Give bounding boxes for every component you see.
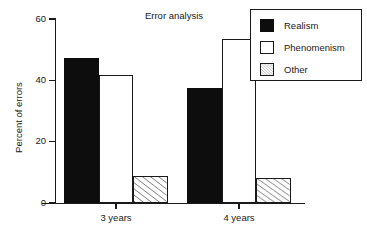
legend-label: Phenomenism [284, 42, 345, 53]
y-axis-tick-label: 0 [20, 197, 46, 208]
chart-legend: RealismPhenomenismOther [250, 9, 362, 81]
bar-other-4-years [256, 178, 291, 203]
hatch-pattern-icon [257, 179, 290, 202]
bar-realism-3-years [64, 58, 99, 203]
x-axis-tick-label: 3 years [76, 212, 156, 223]
y-axis-tick [49, 141, 56, 142]
legend-label: Other [284, 64, 308, 75]
legend-item-other: Other [260, 62, 308, 77]
hatch-pattern-icon [261, 64, 273, 75]
y-axis-tick [49, 202, 56, 203]
bar-phenomenism-3-years [99, 75, 134, 203]
legend-item-realism: Realism [260, 18, 318, 33]
y-axis-tick [49, 18, 56, 19]
bar-other-3-years [133, 176, 168, 203]
legend-item-phenomenism: Phenomenism [260, 40, 345, 55]
legend-swatch-hatch-icon [260, 63, 274, 76]
x-axis-tick-label: 4 years [199, 212, 279, 223]
legend-label: Realism [284, 20, 318, 31]
y-axis-tick-label: 40 [20, 74, 46, 85]
y-axis-tick-label: 60 [20, 13, 46, 24]
legend-swatch-open-icon [260, 41, 274, 54]
y-axis-tick [49, 80, 56, 81]
x-axis-tick [238, 204, 239, 209]
x-axis-tick [115, 204, 116, 209]
legend-swatch-solid-icon [260, 19, 274, 32]
hatch-pattern-icon [134, 177, 167, 202]
y-axis-label: Percent of errors [13, 48, 24, 188]
y-axis-tick-label: 20 [20, 135, 46, 146]
y-axis-tick-label-wrap: 60 [16, 13, 46, 25]
y-axis-tick-label-wrap: 40 [16, 74, 46, 86]
error-analysis-bar-chart: Error analysis Percent of errors 0204060… [0, 0, 367, 234]
bar-realism-4-years [187, 88, 222, 203]
x-axis-line [42, 203, 305, 204]
y-axis-tick-label-wrap: 20 [16, 135, 46, 147]
y-axis-label-host: Percent of errors [4, 20, 18, 204]
